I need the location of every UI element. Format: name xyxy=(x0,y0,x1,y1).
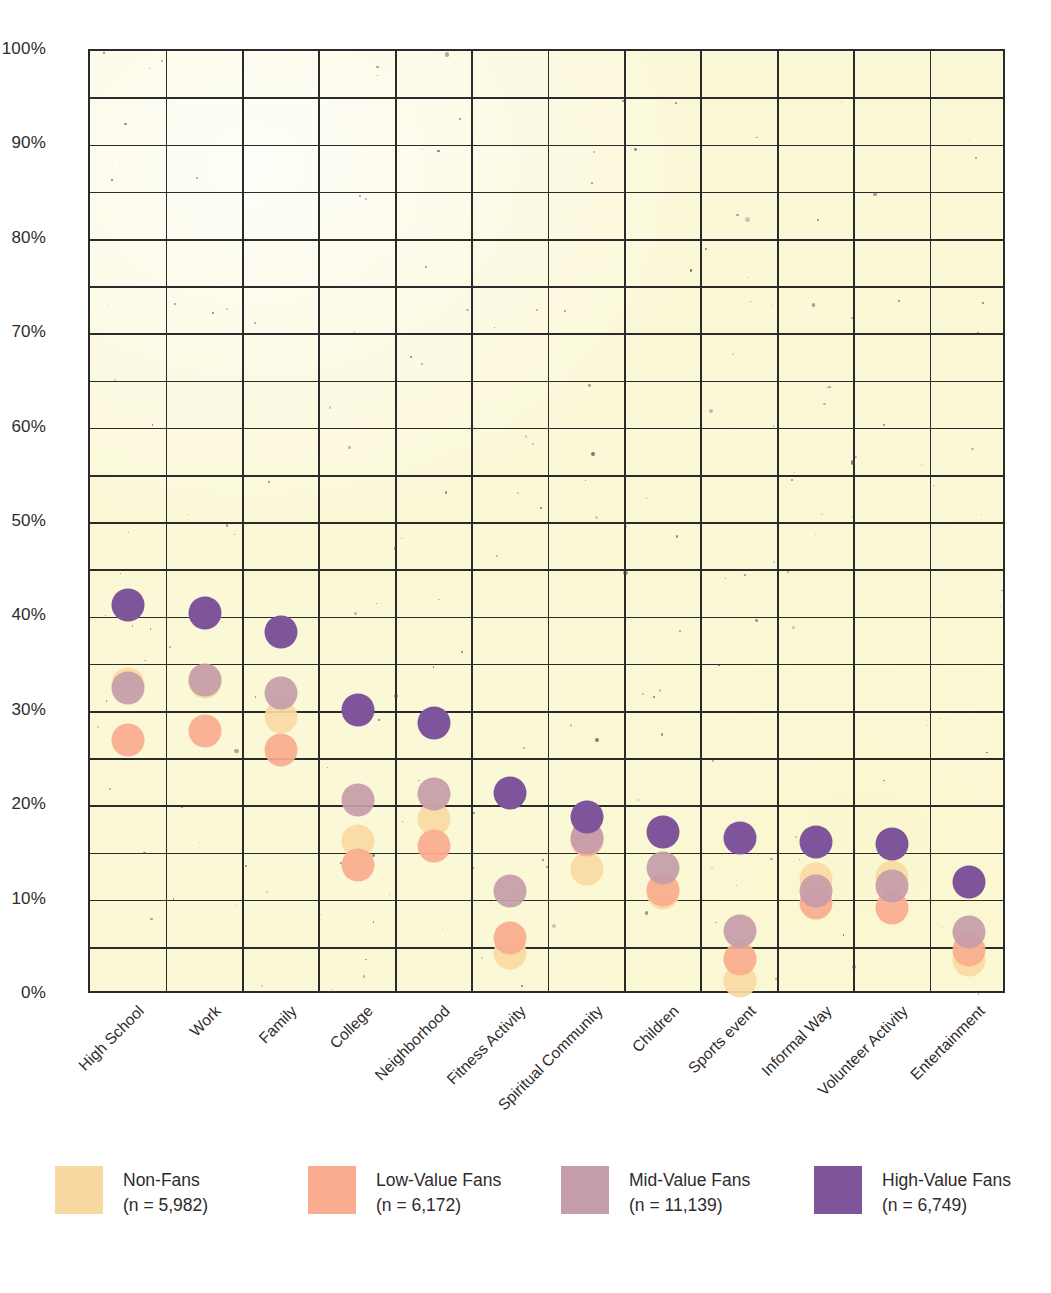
grid-line-horizontal xyxy=(90,947,1003,949)
legend-item[interactable]: Low-Value Fans(n = 6,172) xyxy=(308,1166,501,1219)
paper-speck xyxy=(174,303,176,305)
x-axis-tick-label: Children xyxy=(629,1002,683,1056)
paper-speck xyxy=(982,302,984,304)
paper-speck xyxy=(437,150,439,152)
paper-speck xyxy=(97,726,99,728)
data-point xyxy=(112,672,145,705)
paper-speck xyxy=(422,149,423,150)
data-point xyxy=(952,915,985,948)
paper-speck xyxy=(564,310,566,312)
data-point xyxy=(188,714,221,747)
paper-speck xyxy=(106,700,107,701)
data-point xyxy=(265,733,298,766)
grid-line-horizontal xyxy=(90,475,1003,477)
paper-speck xyxy=(883,424,885,426)
paper-speck xyxy=(815,534,816,535)
data-point xyxy=(341,848,374,881)
paper-speck xyxy=(570,724,572,726)
paper-speck xyxy=(883,780,884,781)
paper-speck xyxy=(748,277,750,279)
paper-speck xyxy=(942,927,943,928)
paper-speck xyxy=(517,492,519,494)
paper-speck xyxy=(365,959,367,961)
paper-speck xyxy=(523,747,525,749)
chart-legend: Non-Fans(n = 5,982)Low-Value Fans(n = 6,… xyxy=(55,1166,1015,1236)
paper-speck xyxy=(676,535,678,537)
data-point xyxy=(570,800,603,833)
data-point xyxy=(417,777,450,810)
paper-speck xyxy=(196,177,198,179)
paper-speck xyxy=(634,148,636,150)
paper-speck xyxy=(642,693,644,695)
legend-item[interactable]: High-Value Fans(n = 6,749) xyxy=(814,1166,1011,1219)
paper-speck xyxy=(414,599,415,600)
grid-line-vertical xyxy=(853,51,855,991)
legend-label-name: Low-Value Fans xyxy=(376,1170,501,1190)
y-axis-tick-label: 20% xyxy=(0,794,46,814)
paper-speck xyxy=(410,356,412,358)
y-axis-tick-label: 0% xyxy=(0,983,46,1003)
paper-speck xyxy=(745,217,750,222)
paper-speck xyxy=(521,985,523,987)
plot-area xyxy=(88,49,1005,993)
data-point xyxy=(723,943,756,976)
paper-speck xyxy=(365,198,366,199)
paper-speck xyxy=(466,309,468,311)
y-axis-tick-label: 80% xyxy=(0,228,46,248)
data-point xyxy=(800,826,833,859)
paper-speck xyxy=(1000,606,1001,607)
paper-speck xyxy=(679,630,681,632)
paper-speck xyxy=(418,780,420,782)
paper-speck xyxy=(144,660,146,662)
paper-speck xyxy=(595,516,598,519)
paper-speck xyxy=(377,75,378,76)
paper-speck xyxy=(120,573,121,574)
paper-speck xyxy=(103,52,105,54)
legend-label: High-Value Fans(n = 6,749) xyxy=(882,1166,1011,1219)
data-point xyxy=(341,783,374,816)
paper-speck xyxy=(588,384,591,387)
grid-line-horizontal xyxy=(90,381,1003,383)
grid-line-vertical xyxy=(318,51,320,991)
paper-speck xyxy=(744,574,746,576)
data-point xyxy=(723,914,756,947)
x-axis-tick-label: Family xyxy=(255,1002,300,1047)
x-axis-tick-label: Entertainment xyxy=(907,1002,989,1084)
paper-speck xyxy=(331,989,333,991)
paper-speck xyxy=(245,865,247,867)
paper-speck xyxy=(659,689,661,691)
legend-item[interactable]: Mid-Value Fans(n = 11,139) xyxy=(561,1166,750,1219)
paper-speck xyxy=(986,752,988,754)
legend-item[interactable]: Non-Fans(n = 5,982) xyxy=(55,1166,208,1219)
paper-speck xyxy=(329,406,331,408)
paper-speck xyxy=(939,718,940,719)
paper-speck xyxy=(638,799,640,801)
data-point xyxy=(494,922,527,955)
legend-label-name: Mid-Value Fans xyxy=(629,1170,750,1190)
paper-speck xyxy=(149,68,150,69)
paper-speck xyxy=(826,387,828,389)
paper-speck xyxy=(389,894,390,895)
paper-speck xyxy=(770,858,772,860)
paper-speck xyxy=(442,928,443,929)
data-point xyxy=(647,851,680,884)
paper-speck xyxy=(169,646,171,648)
paper-speck xyxy=(445,491,447,493)
grid-line-horizontal xyxy=(90,333,1003,335)
grid-line-horizontal xyxy=(90,145,1003,147)
paper-speck xyxy=(709,409,713,413)
paper-speck xyxy=(772,305,773,306)
paper-speck xyxy=(112,162,113,163)
x-axis-tick-label: High School xyxy=(75,1002,148,1075)
paper-speck xyxy=(268,481,270,483)
paper-speck xyxy=(794,472,795,473)
paper-speck xyxy=(327,767,329,769)
paper-speck xyxy=(756,137,757,138)
paper-speck xyxy=(933,485,934,486)
paper-speck xyxy=(402,821,403,822)
data-point xyxy=(570,852,603,885)
paper-speck xyxy=(234,749,239,754)
paper-speck xyxy=(438,599,439,600)
grid-line-horizontal xyxy=(90,428,1003,430)
paper-speck xyxy=(124,123,127,126)
